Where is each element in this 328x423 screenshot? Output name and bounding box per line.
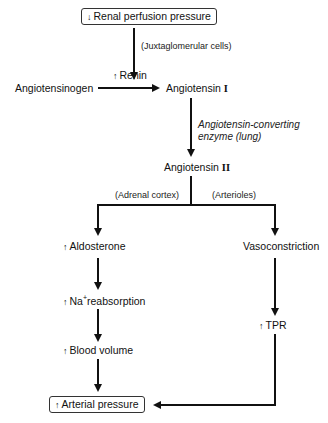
node-angiotensin-1: Angiotensin I: [166, 83, 228, 95]
label-juxtaglomerular: (Juxtaglomerular cells): [141, 42, 232, 51]
node-renal-perfusion-pressure: ↓Renal perfusion pressure: [81, 8, 217, 25]
node-angiotensinogen: Angiotensinogen: [15, 83, 93, 94]
node-vasoconstriction: Vasoconstriction: [243, 241, 319, 252]
node-na-reabsorption: ↑Na+reabsorption: [63, 294, 145, 307]
node-angiotensin-2: Angiotensin II: [164, 162, 230, 174]
node-arterial-pressure: ↑Arterial pressure: [49, 396, 145, 413]
node-renin: ↑Renin: [113, 70, 147, 81]
node-blood-volume: ↑Blood volume: [63, 345, 133, 356]
node-aldosterone: ↑Aldosterone: [63, 241, 126, 252]
diagram-connectors: [0, 0, 328, 423]
up-arrow-icon: ↑: [55, 400, 60, 410]
up-arrow-icon: ↑: [259, 321, 264, 331]
arrow-tpr-to-ap: [155, 334, 275, 405]
node-tpr: ↑TPR: [259, 320, 287, 331]
label-ace: Angiotensin-converting enzyme (lung): [198, 119, 300, 143]
up-arrow-icon: ↑: [113, 71, 118, 81]
label-adrenal-cortex: (Adrenal cortex): [115, 191, 179, 200]
label-arterioles: (Arterioles): [212, 191, 256, 200]
down-arrow-icon: ↓: [87, 12, 92, 22]
up-arrow-icon: ↑: [63, 297, 68, 307]
up-arrow-icon: ↑: [63, 242, 68, 252]
up-arrow-icon: ↑: [63, 346, 68, 356]
